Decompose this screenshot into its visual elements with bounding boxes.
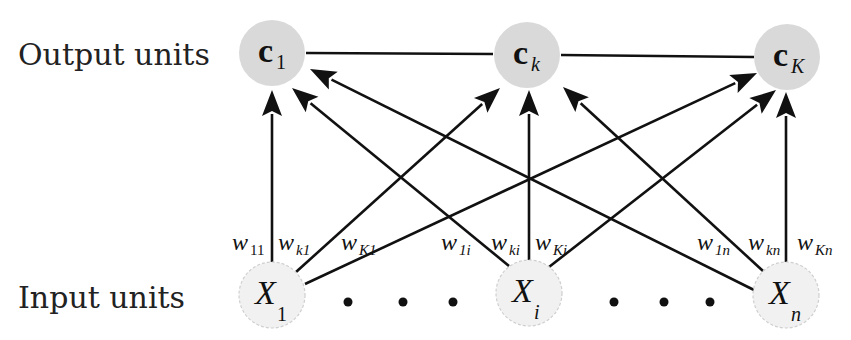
- output-node-ck: ck: [494, 22, 560, 88]
- weight-subscript: Ki: [552, 242, 567, 258]
- ellipsis-dot: [706, 298, 715, 307]
- weight-label-1n: w1n: [697, 229, 730, 258]
- node-label: X: [510, 272, 534, 309]
- weight-symbol: w: [278, 229, 294, 255]
- weight-symbol: w: [441, 229, 457, 255]
- arrowhead-icon: [310, 69, 338, 90]
- arrowhead-icon: [749, 90, 776, 114]
- weight-subscript: K1: [358, 242, 377, 258]
- node-subscript: 1: [276, 51, 286, 73]
- weight-symbol: w: [697, 229, 713, 255]
- edge-line: [581, 103, 763, 271]
- input-units-label: Input units: [18, 280, 185, 315]
- weight-symbol: w: [748, 229, 764, 255]
- ellipsis-dot: [610, 298, 619, 307]
- weight-label-Ki: wKi: [535, 229, 567, 258]
- node-subscript: 1: [277, 303, 287, 325]
- weight-label-k1: wk1: [278, 229, 310, 258]
- node-subscript: K: [790, 55, 806, 77]
- output-node-c1: c1: [239, 20, 305, 86]
- weight-symbol: w: [232, 229, 248, 255]
- node-subscript: k: [531, 53, 541, 75]
- ellipsis-dot: [344, 298, 353, 307]
- node-label: c: [258, 32, 273, 69]
- ellipsis-dot: [449, 298, 458, 307]
- node-label: c: [773, 36, 788, 73]
- output-node-cK: cK: [754, 24, 820, 90]
- weight-symbol: w: [491, 229, 507, 255]
- arrowhead-icon: [292, 88, 318, 112]
- weight-label-ki: wki: [491, 229, 520, 258]
- weight-subscript: kn: [766, 242, 780, 258]
- weight-label-11: w11: [232, 229, 264, 258]
- weight-symbol: w: [797, 229, 813, 255]
- neural-network-diagram: Output units Input units c1ckcK X1XiXn w…: [0, 0, 851, 340]
- weight-subscript: 11: [250, 242, 264, 258]
- arrowhead-icon: [262, 90, 282, 116]
- node-label: c: [513, 34, 528, 71]
- weight-label-K1: wK1: [341, 229, 377, 258]
- weight-subscript: ki: [509, 242, 520, 258]
- weight-symbol: w: [341, 229, 357, 255]
- edge-line: [331, 80, 754, 290]
- weight-subscript: 1n: [715, 242, 730, 258]
- input-node-Xi: Xi: [496, 260, 562, 326]
- weight-subscript: k1: [296, 242, 310, 258]
- lateral-connection-line: [306, 53, 493, 54]
- node-subscript: n: [791, 303, 801, 325]
- weight-label-1i: w1i: [441, 229, 471, 258]
- weight-subscript: 1i: [459, 242, 471, 258]
- lateral-connection-line: [561, 55, 754, 57]
- node-label: X: [253, 274, 277, 311]
- weight-subscript: Kn: [814, 242, 833, 258]
- input-layer: X1XiXn: [239, 260, 819, 328]
- arrowhead-icon: [519, 90, 539, 116]
- ellipsis-dot: [399, 298, 408, 307]
- node-subscript: i: [534, 301, 540, 323]
- weight-label-Kn: wKn: [797, 229, 833, 258]
- arrowhead-icon: [776, 92, 796, 118]
- weighted-edge: [776, 92, 796, 262]
- output-units-label: Output units: [18, 37, 210, 72]
- input-node-Xn: Xn: [753, 262, 819, 328]
- input-node-X1: X1: [239, 262, 305, 328]
- ellipsis-dot: [660, 298, 669, 307]
- weight-label-kn: wkn: [748, 229, 780, 258]
- weight-symbol: w: [535, 229, 551, 255]
- node-label: X: [767, 274, 791, 311]
